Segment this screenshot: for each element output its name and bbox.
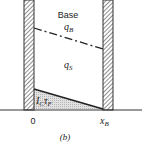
xb-label: xB xyxy=(99,115,109,128)
qb-label: qB xyxy=(64,21,74,34)
base-charge-diagram: Base qB qS ICτF 0 xB (b) xyxy=(0,0,142,144)
right-junction-wall xyxy=(103,0,113,110)
qs-label: qS xyxy=(64,59,73,72)
left-junction-wall xyxy=(24,0,34,110)
x-origin-label: 0 xyxy=(30,116,35,126)
base-label: Base xyxy=(58,10,79,20)
figure-caption: (b) xyxy=(60,132,71,142)
